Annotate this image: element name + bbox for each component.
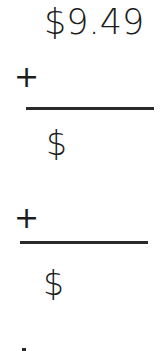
sum-line <box>20 241 148 244</box>
sum-line <box>26 107 154 110</box>
answer-dollar-sign: $ <box>43 264 64 304</box>
answer-dollar-sign: $ <box>46 124 67 164</box>
plus-sign: + <box>14 203 39 233</box>
top-amount: $9.49 <box>44 0 144 44</box>
plus-sign: + <box>14 62 39 92</box>
